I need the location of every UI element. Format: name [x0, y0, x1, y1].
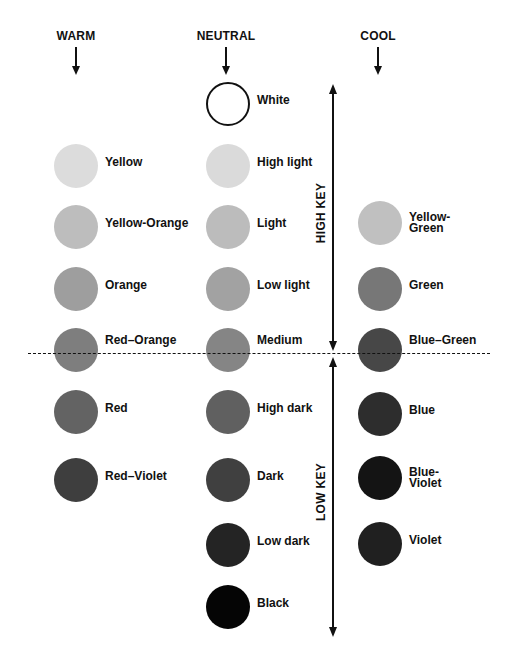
swatch-label: High light	[257, 157, 312, 168]
swatch-label: Red	[105, 403, 128, 414]
swatch-label: Blue	[409, 405, 435, 416]
color-swatch	[206, 205, 250, 249]
swatch-label: Light	[257, 218, 286, 229]
arrow-down-icon	[75, 47, 77, 67]
low-key-axis-line	[332, 365, 334, 628]
arrow-down-icon	[225, 47, 227, 67]
arrow-down-icon	[377, 47, 379, 67]
swatch-label: Dark	[257, 471, 284, 482]
color-swatch	[358, 392, 402, 436]
swatch-label: Low dark	[257, 536, 310, 547]
color-swatch	[206, 585, 250, 629]
heading-neutral: NEUTRAL	[197, 29, 256, 43]
color-swatch	[54, 390, 98, 434]
color-swatch	[358, 522, 402, 566]
color-swatch	[358, 267, 402, 311]
swatch-label: Yellow	[105, 157, 142, 168]
swatch-label: High dark	[257, 403, 312, 414]
swatch-label: Orange	[105, 280, 147, 291]
key-divider-dashed-line	[28, 353, 490, 354]
color-swatch	[358, 456, 402, 500]
color-swatch	[54, 267, 98, 311]
swatch-label: White	[257, 95, 290, 106]
color-swatch	[206, 328, 250, 372]
color-swatch	[206, 82, 250, 126]
color-swatch	[54, 144, 98, 188]
swatch-label: Violet	[409, 535, 441, 546]
color-swatch	[358, 328, 402, 372]
swatch-label: Green	[409, 280, 444, 291]
arrow-down-icon	[329, 627, 337, 637]
swatch-label: Blue- Violet	[409, 467, 441, 489]
color-swatch	[54, 328, 98, 372]
color-swatch	[206, 390, 250, 434]
color-swatch	[54, 205, 98, 249]
swatch-label: Red–Violet	[105, 471, 167, 482]
swatch-label: Yellow-Orange	[105, 218, 188, 229]
arrow-down-icon	[329, 341, 337, 351]
swatch-label: Blue–Green	[409, 335, 476, 346]
high-key-label: HIGH KEY	[314, 183, 328, 243]
swatch-label: Low light	[257, 280, 310, 291]
high-key-axis-line	[332, 92, 334, 342]
color-swatch	[206, 267, 250, 311]
swatch-label: Black	[257, 598, 289, 609]
color-swatch	[206, 523, 250, 567]
color-swatch	[206, 458, 250, 502]
color-swatch	[54, 458, 98, 502]
swatch-label: Yellow- Green	[409, 212, 450, 234]
low-key-label: LOW KEY	[314, 463, 328, 521]
color-swatch	[358, 201, 402, 245]
heading-warm: WARM	[57, 29, 96, 43]
swatch-label: Medium	[257, 335, 302, 346]
swatch-label: Red–Orange	[105, 335, 176, 346]
heading-cool: COOL	[360, 29, 395, 43]
color-swatch	[206, 144, 250, 188]
